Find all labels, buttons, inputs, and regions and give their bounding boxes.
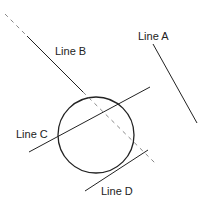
line-c (29, 87, 150, 152)
label-line-a: Line A (138, 30, 169, 42)
circle (58, 97, 134, 173)
label-line-b: Line B (55, 45, 86, 57)
label-line-d: Line D (101, 185, 133, 197)
line-a (153, 44, 197, 123)
geometry-diagram: Line A Line B Line C Line D (0, 0, 209, 198)
line-b-dashed-top (5, 14, 27, 36)
label-line-c: Line C (16, 128, 48, 140)
